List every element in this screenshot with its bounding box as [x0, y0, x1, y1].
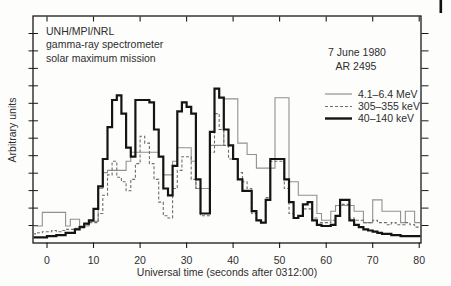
x-tick-label: 70 — [367, 254, 379, 266]
x-tick-label: 40 — [227, 254, 239, 266]
legend-label-305-355: 305–355 keV — [358, 100, 420, 112]
x-tick-label: 0 — [44, 254, 50, 266]
header-line-2: gamma-ray spectrometer — [46, 38, 164, 50]
annotation-date: 7 June 1980 — [328, 46, 386, 58]
x-tick-label: 60 — [320, 254, 332, 266]
x-tick-label: 80 — [413, 254, 425, 266]
chart-svg: 01020304050607080 UNH/MPI/NRL gamma-ray … — [0, 0, 451, 286]
legend-label-40-140: 40–140 keV — [358, 112, 414, 124]
x-tick-label: 30 — [181, 254, 193, 266]
page-corner-mark — [440, 0, 443, 13]
x-axis-title: Universal time (seconds after 0312:00) — [137, 266, 317, 278]
x-tick-label: 20 — [134, 254, 146, 266]
legend-label-mev: 4.1–6.4 MeV — [358, 88, 418, 100]
x-tick-label: 50 — [274, 254, 286, 266]
x-tick-label: 10 — [88, 254, 100, 266]
header-line-1: UNH/MPI/NRL — [46, 25, 114, 37]
header-line-3: solar maximum mission — [46, 52, 156, 64]
figure: 01020304050607080 UNH/MPI/NRL gamma-ray … — [0, 0, 451, 286]
annotation-region: AR 2495 — [336, 60, 377, 72]
y-axis-title: Arbitrary units — [6, 98, 18, 163]
